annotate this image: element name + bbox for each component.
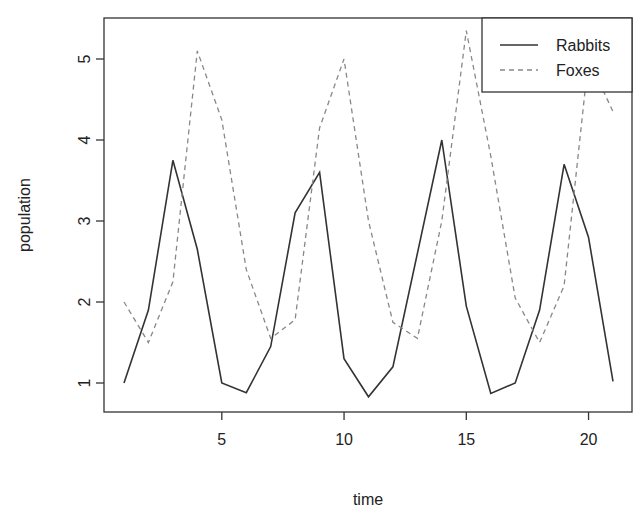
y-tick-label: 5	[76, 54, 93, 63]
line-chart: 5101520 12345 Rabbits Foxes time populat…	[0, 0, 644, 515]
series-line-rabbits	[124, 140, 613, 397]
legend-label-foxes: Foxes	[556, 62, 600, 79]
x-axis: 5101520	[217, 412, 597, 448]
legend-label-rabbits: Rabbits	[556, 37, 610, 54]
x-tick-label: 10	[335, 431, 353, 448]
x-axis-label: time	[353, 491, 383, 508]
y-tick-label: 2	[76, 297, 93, 306]
y-tick-label: 3	[76, 216, 93, 225]
y-axis-label: population	[16, 178, 33, 252]
x-tick-label: 20	[580, 431, 598, 448]
y-axis: 12345	[76, 54, 104, 387]
legend-box	[482, 18, 632, 92]
x-tick-label: 5	[217, 431, 226, 448]
y-tick-label: 4	[76, 135, 93, 144]
legend: Rabbits Foxes	[482, 18, 632, 92]
y-tick-label: 1	[76, 378, 93, 387]
x-tick-label: 15	[457, 431, 475, 448]
